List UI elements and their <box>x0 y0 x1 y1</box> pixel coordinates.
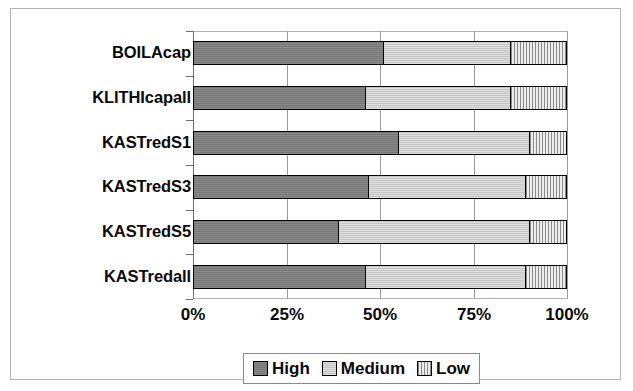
x-axis-tick-label: 0% <box>181 305 206 325</box>
stacked-bar-kastredall[interactable] <box>193 265 567 289</box>
bar-segment-low[interactable] <box>530 132 567 154</box>
bar-row[interactable] <box>193 131 567 155</box>
legend-item-high[interactable]: High <box>253 359 310 379</box>
gridline-0pct <box>193 31 194 299</box>
bar-segment-low[interactable] <box>511 87 567 109</box>
y-axis-category-labels: BOILAcapKLITHIcapallKASTredS1KASTredS3KA… <box>13 31 191 299</box>
legend-label: High <box>272 359 310 379</box>
y-axis-tick <box>186 165 193 166</box>
x-axis-tick-label: 25% <box>270 305 304 325</box>
gridline-100pct <box>567 31 568 299</box>
bar-segment-low[interactable] <box>530 221 567 243</box>
bar-segment-low[interactable] <box>526 176 567 198</box>
category-label-kastreds5: KASTredS5 <box>21 222 191 241</box>
bar-segment-medium[interactable] <box>366 266 526 288</box>
stacked-bar-klithicapall[interactable] <box>193 86 567 110</box>
bar-segment-medium[interactable] <box>366 87 511 109</box>
bar-segment-high[interactable] <box>194 221 339 243</box>
y-axis-tick <box>186 254 193 255</box>
x-axis-tick-labels: 0%25%50%75%100% <box>193 305 567 331</box>
bar-segment-high[interactable] <box>194 176 369 198</box>
stacked-bar-boilacap[interactable] <box>193 41 567 65</box>
stacked-bar-kastreds5[interactable] <box>193 220 567 244</box>
y-axis-tick <box>186 76 193 77</box>
x-axis-tick-label: 100% <box>545 305 588 325</box>
legend-item-medium[interactable]: Medium <box>322 359 405 379</box>
bar-row[interactable] <box>193 86 567 110</box>
y-axis-tick <box>186 120 193 121</box>
gridline-25pct <box>287 31 288 299</box>
category-label-kastredall: KASTredall <box>21 267 191 286</box>
stacked-bar-kastreds1[interactable] <box>193 131 567 155</box>
y-axis-tick <box>186 31 193 32</box>
stacked-bar-kastreds3[interactable] <box>193 175 567 199</box>
bar-row[interactable] <box>193 175 567 199</box>
y-axis-tick <box>186 210 193 211</box>
bar-row[interactable] <box>193 265 567 289</box>
y-axis-tick <box>186 299 193 300</box>
gridline-50pct <box>380 31 381 299</box>
bar-segment-medium[interactable] <box>369 176 526 198</box>
bar-segment-medium[interactable] <box>399 132 530 154</box>
bar-segment-high[interactable] <box>194 87 366 109</box>
x-axis-tick-label: 75% <box>457 305 491 325</box>
plot-area <box>193 31 567 299</box>
high-swatch <box>253 361 268 376</box>
bar-segment-low[interactable] <box>511 42 567 64</box>
bar-row[interactable] <box>193 220 567 244</box>
category-label-boilacap: BOILAcap <box>21 43 191 62</box>
bar-segment-high[interactable] <box>194 266 366 288</box>
low-swatch <box>417 361 432 376</box>
chart-legend: HighMediumLow <box>243 353 480 384</box>
legend-label: Low <box>436 359 470 379</box>
bar-segment-high[interactable] <box>194 42 384 64</box>
chart-frame: BOILAcapKLITHIcapallKASTredS1KASTredS3KA… <box>10 8 621 380</box>
legend-label: Medium <box>341 359 405 379</box>
category-label-kastreds1: KASTredS1 <box>21 133 191 152</box>
gridline-75pct <box>474 31 475 299</box>
bar-row[interactable] <box>193 41 567 65</box>
medium-swatch <box>322 361 337 376</box>
bar-segment-low[interactable] <box>526 266 567 288</box>
category-label-klithicapall: KLITHIcapall <box>21 88 191 107</box>
bar-segment-medium[interactable] <box>339 221 529 243</box>
category-label-kastreds3: KASTredS3 <box>21 177 191 196</box>
bar-segment-medium[interactable] <box>384 42 511 64</box>
x-axis-tick-label: 50% <box>363 305 397 325</box>
legend-item-low[interactable]: Low <box>417 359 470 379</box>
bar-segment-high[interactable] <box>194 132 399 154</box>
